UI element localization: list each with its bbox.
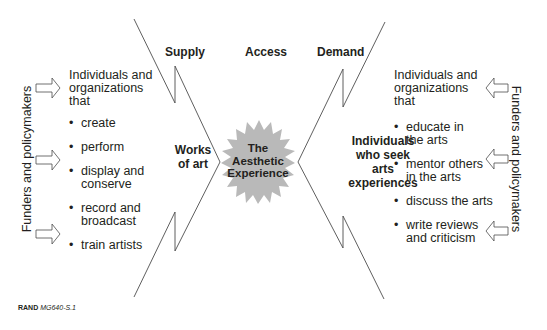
header-supply: Supply — [165, 45, 205, 59]
funders-label-left: Funders and policymakers — [0, 152, 112, 168]
list-item: discuss the arts — [394, 195, 514, 208]
funders-label-right: Funders and policymakers — [431, 152, 547, 168]
supply-intro: Individuals and organizations that — [69, 69, 179, 108]
list-item: educate inthe arts — [394, 121, 514, 147]
header-demand: Demand — [317, 45, 364, 59]
list-item: create — [69, 117, 179, 130]
list-item: display andconserve — [69, 165, 179, 191]
demand-intro: Individuals and organizations that — [394, 69, 504, 108]
arrow-right-icon — [36, 224, 60, 244]
list-item: write reviewsand criticism — [394, 219, 514, 245]
list-item: record andbroadcast — [69, 202, 179, 228]
figure-caption: RAND MG640-S.1 — [18, 304, 76, 311]
demand-activities-list: educate inthe arts mentor othersin the a… — [394, 121, 514, 245]
list-item: train artists — [69, 239, 179, 252]
arrow-right-icon — [36, 78, 60, 98]
header-access: Access — [245, 45, 287, 59]
supply-activities-list: create perform display andconserve recor… — [69, 117, 179, 252]
aesthetic-experience-label: The Aesthetic Experience — [222, 142, 294, 180]
